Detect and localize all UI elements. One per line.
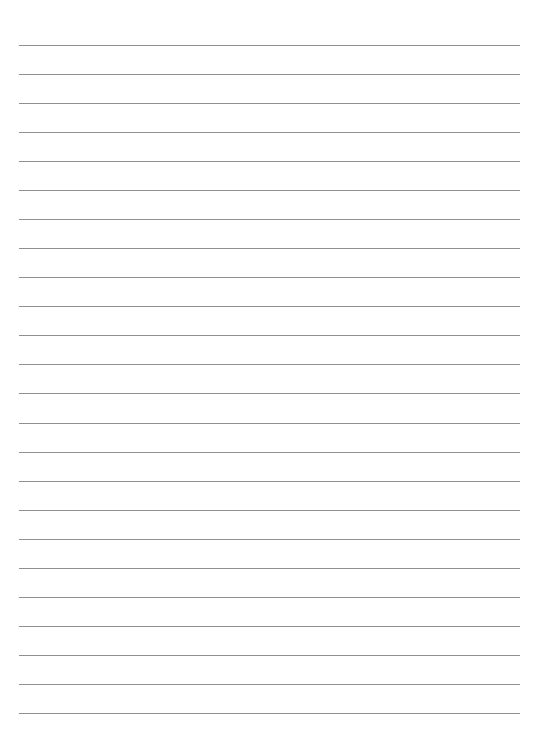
- ruled-line: [19, 132, 520, 133]
- ruled-line: [19, 45, 520, 46]
- ruled-line: [19, 597, 520, 598]
- ruled-line: [19, 713, 520, 714]
- ruled-line: [19, 539, 520, 540]
- ruled-line: [19, 74, 520, 75]
- ruled-line: [19, 277, 520, 278]
- ruled-line: [19, 423, 520, 424]
- ruled-line: [19, 103, 520, 104]
- ruled-line: [19, 364, 520, 365]
- ruled-line: [19, 452, 520, 453]
- ruled-line: [19, 626, 520, 627]
- ruled-line: [19, 219, 520, 220]
- ruled-line: [19, 248, 520, 249]
- ruled-line: [19, 190, 520, 191]
- lined-paper-page: [0, 0, 544, 742]
- ruled-line: [19, 684, 520, 685]
- ruled-line: [19, 306, 520, 307]
- ruled-line: [19, 393, 520, 394]
- ruled-line: [19, 655, 520, 656]
- ruled-line: [19, 510, 520, 511]
- ruled-line: [19, 161, 520, 162]
- ruled-line: [19, 335, 520, 336]
- ruled-line: [19, 481, 520, 482]
- ruled-line: [19, 568, 520, 569]
